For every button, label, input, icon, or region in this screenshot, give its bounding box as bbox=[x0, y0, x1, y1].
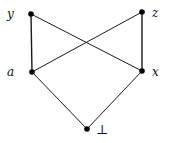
node-z bbox=[139, 9, 145, 15]
edge-x-bottom bbox=[87, 71, 142, 129]
label-x: x bbox=[152, 65, 159, 79]
node-x bbox=[139, 68, 145, 74]
label-y: y bbox=[6, 7, 14, 21]
label-bottom: ⊥ bbox=[96, 122, 108, 137]
node-a bbox=[29, 69, 35, 75]
node-y bbox=[28, 11, 34, 17]
edge-a-bottom bbox=[32, 72, 87, 129]
hasse-diagram: y z a x ⊥ bbox=[0, 0, 169, 143]
node-bottom bbox=[84, 126, 90, 132]
edges bbox=[31, 12, 142, 129]
labels: y z a x ⊥ bbox=[6, 6, 159, 137]
edge-y-a bbox=[31, 14, 32, 72]
label-z: z bbox=[151, 6, 159, 20]
label-a: a bbox=[7, 65, 14, 79]
nodes bbox=[28, 9, 145, 132]
